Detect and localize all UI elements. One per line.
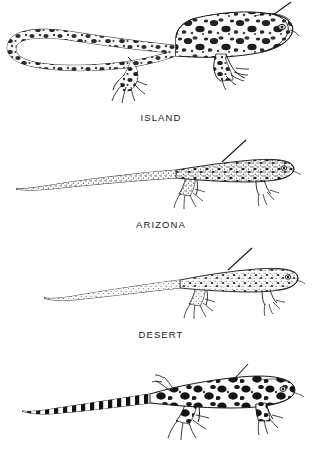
figure-arizona — [0, 130, 322, 220]
figure-panel-unlabeled — [0, 350, 322, 454]
figure-caption-desert: DESERT — [0, 329, 322, 340]
figure-unlabeled — [0, 350, 322, 454]
body-unlabeled — [150, 376, 295, 408]
leader-line-arizona — [222, 140, 246, 162]
figure-caption-island: ISLAND — [0, 112, 322, 123]
figure-panel-desert: DESERT — [0, 240, 322, 345]
figure-desert — [0, 240, 322, 330]
body-desert — [180, 268, 298, 292]
figure-island — [0, 0, 322, 110]
figure-caption-arizona: ARIZONA — [0, 219, 322, 230]
body-arizona — [176, 159, 294, 182]
illustration-plate: ISLAND — [0, 0, 322, 454]
leader-line-desert — [228, 248, 252, 270]
figure-panel-island: ISLAND — [0, 0, 322, 130]
figure-panel-arizona: ARIZONA — [0, 130, 322, 235]
front-leg-desert — [262, 290, 265, 305]
front-foot-arizona — [258, 190, 279, 206]
front-foot-desert — [264, 300, 285, 316]
